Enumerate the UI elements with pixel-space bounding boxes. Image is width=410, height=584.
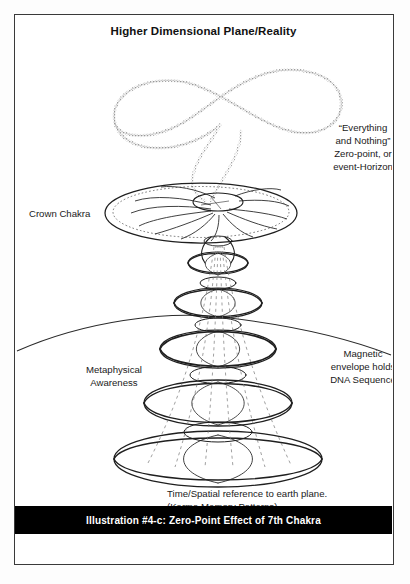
figure-page: Higher Dimensional Plane/Reality — [0, 0, 410, 584]
crown-chakra-disc — [105, 183, 297, 243]
infinity-symbol-icon — [114, 70, 341, 201]
caption-text: Illustration #4-c: Zero-Point Effect of … — [86, 515, 321, 526]
annotation-metaphysical-awareness: Metaphysical Awareness — [63, 363, 165, 389]
caption-bar: Illustration #4-c: Zero-Point Effect of … — [15, 506, 392, 534]
dna-sequence-filaments — [147, 245, 291, 467]
annotation-everything-and-nothing: “Everything and Nothing” Zero-point, or … — [315, 121, 392, 173]
zero-point-chakra-illustration — [15, 15, 392, 534]
magnetic-envelope-vortex — [114, 236, 322, 487]
annotation-crown-chakra: Crown Chakra — [29, 207, 125, 220]
illustration-plate: Higher Dimensional Plane/Reality — [15, 15, 392, 534]
illustration-frame: Higher Dimensional Plane/Reality — [14, 14, 394, 565]
page-title: Higher Dimensional Plane/Reality — [15, 25, 392, 37]
annotation-magnetic-envelope: Magnetic envelope holds DNA Sequence — [313, 347, 392, 386]
